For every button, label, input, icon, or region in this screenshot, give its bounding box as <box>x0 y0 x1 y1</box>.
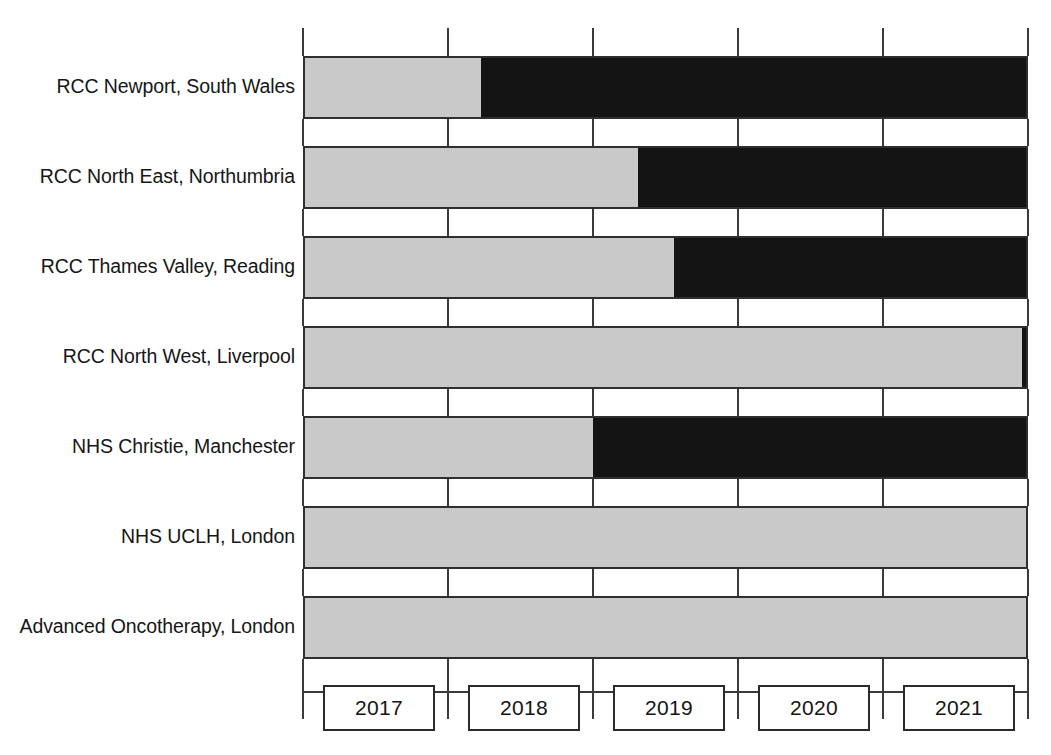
bar-segment-construction <box>303 236 674 299</box>
x-axis-tick-bottom-0 <box>302 659 304 719</box>
x-axis-tick-bottom-1 <box>447 659 449 719</box>
x-axis-tick-gap-1-4 <box>882 209 884 236</box>
bar-segment-treatment <box>1022 326 1028 389</box>
x-axis-tick-gap-0-1 <box>447 119 449 146</box>
year-label-2020: 2020 <box>758 685 870 731</box>
bar-row <box>303 506 1028 569</box>
x-axis-tick-gap-5-0 <box>302 569 304 596</box>
x-axis-tick-bottom-2 <box>592 659 594 719</box>
category-label: RCC Thames Valley, Reading <box>0 255 295 278</box>
x-axis-tick-top-4 <box>882 28 884 56</box>
x-axis-tick-gap-4-2 <box>592 479 594 506</box>
horizontal-stacked-bar-chart: RCC Newport, South WalesRCC North East, … <box>0 0 1051 755</box>
bar-row <box>303 596 1028 659</box>
bar-segment-construction <box>303 56 481 119</box>
x-axis-tick-gap-0-5 <box>1027 119 1029 146</box>
x-axis-tick-gap-4-4 <box>882 479 884 506</box>
category-label: Advanced Oncotherapy, London <box>0 615 295 638</box>
bar-segment-treatment <box>674 236 1028 299</box>
x-axis-tick-gap-2-4 <box>882 299 884 326</box>
x-axis-tick-gap-2-2 <box>592 299 594 326</box>
bar-segment-treatment <box>481 56 1028 119</box>
category-label: RCC North East, Northumbria <box>0 165 295 188</box>
x-axis-tick-gap-1-5 <box>1027 209 1029 236</box>
x-axis-tick-gap-0-0 <box>302 119 304 146</box>
x-axis-tick-gap-4-1 <box>447 479 449 506</box>
x-axis-tick-top-2 <box>592 28 594 56</box>
x-axis-tick-gap-5-5 <box>1027 569 1029 596</box>
bar-row <box>303 146 1028 209</box>
bar-segment-construction <box>303 506 1028 569</box>
x-axis-tick-gap-2-0 <box>302 299 304 326</box>
bar-row <box>303 236 1028 299</box>
bar-segment-treatment <box>638 146 1028 209</box>
x-axis-tick-gap-0-3 <box>737 119 739 146</box>
x-axis-tick-bottom-5 <box>1027 659 1029 719</box>
x-axis-tick-gap-2-5 <box>1027 299 1029 326</box>
category-label: NHS Christie, Manchester <box>0 435 295 458</box>
year-label-2021: 2021 <box>903 685 1015 731</box>
bar-segment-construction <box>303 416 593 479</box>
x-axis-tick-gap-0-2 <box>592 119 594 146</box>
x-axis-tick-bottom-4 <box>882 659 884 719</box>
x-axis-tick-gap-4-3 <box>737 479 739 506</box>
x-axis-tick-gap-3-1 <box>447 389 449 416</box>
year-label-2018: 2018 <box>468 685 580 731</box>
x-axis-tick-gap-1-1 <box>447 209 449 236</box>
x-axis-tick-gap-5-1 <box>447 569 449 596</box>
x-axis-tick-top-1 <box>447 28 449 56</box>
category-label: RCC Newport, South Wales <box>0 75 295 98</box>
bar-segment-construction <box>303 596 1028 659</box>
bar-row <box>303 416 1028 479</box>
x-axis-tick-gap-5-4 <box>882 569 884 596</box>
x-axis-tick-gap-3-0 <box>302 389 304 416</box>
year-label-2017: 2017 <box>323 685 435 731</box>
x-axis-tick-gap-5-2 <box>592 569 594 596</box>
x-axis-tick-gap-1-0 <box>302 209 304 236</box>
bar-row <box>303 326 1028 389</box>
x-axis-tick-gap-5-3 <box>737 569 739 596</box>
category-label: RCC North West, Liverpool <box>0 345 295 368</box>
x-axis-tick-gap-3-3 <box>737 389 739 416</box>
x-axis-tick-gap-4-5 <box>1027 479 1029 506</box>
x-axis-tick-top-0 <box>302 28 304 56</box>
x-axis-tick-bottom-3 <box>737 659 739 719</box>
x-axis-tick-top-3 <box>737 28 739 56</box>
x-axis-tick-gap-2-3 <box>737 299 739 326</box>
bar-segment-construction <box>303 326 1022 389</box>
x-axis-tick-top-5 <box>1027 28 1029 56</box>
year-label-2019: 2019 <box>613 685 725 731</box>
x-axis-tick-gap-1-3 <box>737 209 739 236</box>
x-axis-tick-gap-3-2 <box>592 389 594 416</box>
category-label: NHS UCLH, London <box>0 525 295 548</box>
x-axis-tick-gap-3-5 <box>1027 389 1029 416</box>
x-axis-tick-gap-0-4 <box>882 119 884 146</box>
x-axis-tick-gap-3-4 <box>882 389 884 416</box>
x-axis-tick-gap-4-0 <box>302 479 304 506</box>
x-axis-tick-gap-2-1 <box>447 299 449 326</box>
bar-segment-construction <box>303 146 638 209</box>
x-axis-tick-gap-1-2 <box>592 209 594 236</box>
bar-segment-treatment <box>593 416 1028 479</box>
bar-row <box>303 56 1028 119</box>
